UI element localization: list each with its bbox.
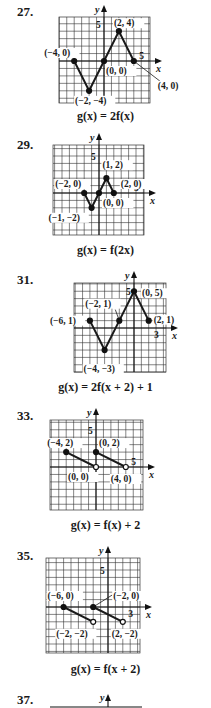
y-axis-label: y xyxy=(99,692,105,703)
